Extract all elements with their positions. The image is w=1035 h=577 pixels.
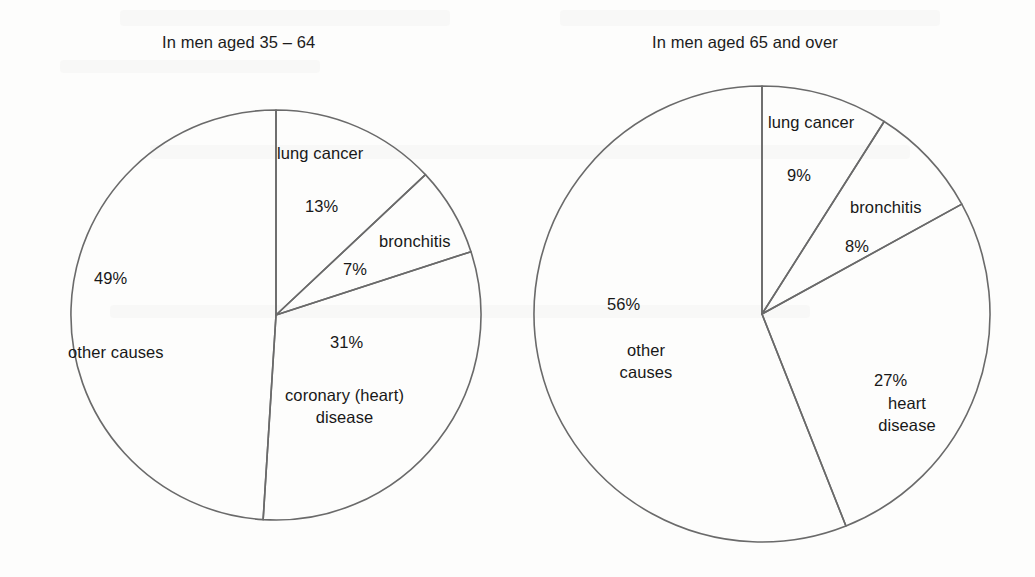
- pie-slice: [762, 204, 990, 526]
- slice-label-bronchitis-right: bronchitis: [850, 197, 922, 219]
- figure-canvas: In men aged 35 – 64 lung cancer 13% bron…: [0, 0, 1035, 577]
- slice-percent-coronary-heart-disease-left: 31%: [330, 332, 363, 354]
- pie-slice: [71, 110, 276, 520]
- slice-percent-lung-cancer-right: 9%: [787, 165, 811, 187]
- slice-label-line-1: heart: [857, 393, 957, 415]
- slice-label-line-2: disease: [857, 415, 957, 437]
- slice-percent-other-causes-right: 56%: [607, 294, 640, 316]
- slice-percent-other-causes-left: 49%: [94, 268, 127, 290]
- slice-percent-bronchitis-right: 8%: [845, 236, 869, 258]
- pie-charts-svg: [0, 0, 1035, 577]
- pie-chart-right: [534, 86, 990, 542]
- slice-label-heart-disease-right: heart disease: [857, 393, 957, 437]
- slice-label-line-1: coronary (heart): [257, 385, 432, 407]
- pie-slice: [534, 86, 846, 542]
- pie-chart-left: [71, 110, 481, 520]
- slice-label-line-1: other: [601, 340, 691, 362]
- slice-label-coronary-heart-disease-left: coronary (heart) disease: [257, 385, 432, 429]
- slice-label-line-2: causes: [601, 362, 691, 384]
- slice-percent-bronchitis-left: 7%: [343, 259, 367, 281]
- slice-label-line-2: disease: [257, 407, 432, 429]
- chart-title-right: In men aged 65 and over: [652, 33, 838, 52]
- slice-percent-heart-disease-right: 27%: [874, 370, 907, 392]
- slice-label-bronchitis-left: bronchitis: [379, 231, 451, 253]
- chart-title-left: In men aged 35 – 64: [162, 33, 315, 52]
- pie-slice: [276, 110, 425, 315]
- slice-label-other-causes-left: other causes: [68, 342, 164, 364]
- slice-label-lung-cancer-right: lung cancer: [768, 112, 854, 134]
- slice-label-lung-cancer-left: lung cancer: [277, 143, 363, 165]
- slice-percent-lung-cancer-left: 13%: [305, 196, 338, 218]
- slice-label-other-causes-right: other causes: [601, 340, 691, 384]
